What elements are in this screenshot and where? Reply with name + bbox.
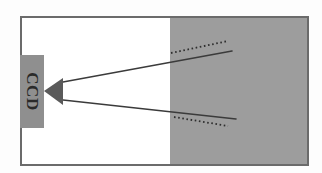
gray-medium-region: [170, 18, 307, 164]
ray-diagram-svg: CCD: [0, 0, 322, 173]
figure-container: CCD: [0, 0, 322, 173]
ccd-label: CCD: [23, 72, 42, 110]
